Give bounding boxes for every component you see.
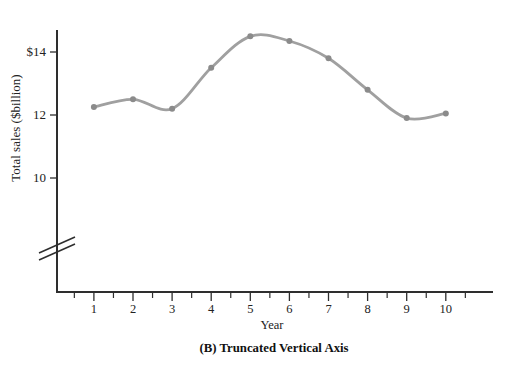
sales-curve [94, 35, 446, 120]
data-point-year-4 [208, 65, 214, 71]
x-tick-label-5: 5 [235, 302, 265, 316]
x-tick-label-7: 7 [314, 302, 344, 316]
data-point-year-6 [286, 38, 292, 44]
data-point-year-7 [326, 55, 332, 61]
figure-caption: (B) Truncated Vertical Axis [199, 341, 348, 356]
x-tick-label-2: 2 [118, 302, 148, 316]
y-axis-title: Total sales ($billion) [8, 43, 24, 213]
x-tick-label-4: 4 [196, 302, 226, 316]
x-tick-label-3: 3 [157, 302, 187, 316]
x-tick-label-1: 1 [79, 302, 109, 316]
x-tick-label-10: 10 [431, 302, 461, 316]
data-point-year-10 [443, 110, 449, 116]
data-point-year-3 [169, 106, 175, 112]
x-axis-title: Year [260, 318, 283, 332]
truncated-axis-line-chart: $14 12 10 12345678910 Total sales ($bill… [0, 0, 508, 370]
data-point-year-9 [404, 115, 410, 121]
x-tick-label-9: 9 [392, 302, 422, 316]
x-tick-label-8: 8 [353, 302, 383, 316]
x-tick-label-6: 6 [274, 302, 304, 316]
data-point-year-1 [91, 104, 97, 110]
data-point-year-5 [247, 33, 253, 39]
data-point-year-8 [365, 87, 371, 93]
data-point-year-2 [130, 96, 136, 102]
